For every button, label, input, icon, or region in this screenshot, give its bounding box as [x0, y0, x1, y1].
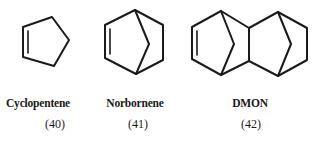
- compound-number-40: (40): [45, 117, 65, 132]
- compound-name-cyclopentene: Cyclopentene: [6, 97, 70, 109]
- cyclopentene-structure: [23, 17, 69, 66]
- compound-number-41: (41): [128, 117, 148, 132]
- norbornene-structure: [105, 10, 163, 74]
- compound-name-norbornene: Norbornene: [106, 97, 163, 109]
- compound-name-dmon: DMON: [232, 97, 268, 109]
- dmon-structure: [192, 11, 307, 76]
- compound-number-42: (42): [241, 117, 261, 132]
